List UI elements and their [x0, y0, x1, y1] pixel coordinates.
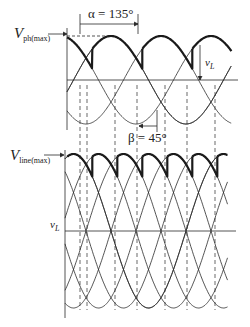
beta-label: β = 45° [128, 131, 167, 144]
bottom-load-voltage-trace [67, 154, 227, 177]
angle-annotations [80, 14, 202, 132]
bottom-vl-label: vL [50, 219, 59, 230]
bottom-axes [44, 150, 236, 318]
top-vl-label: vL [205, 57, 214, 68]
alpha-label: α = 135° [88, 7, 133, 20]
top-axes [48, 28, 238, 130]
vline-max-label: Vline(max) [10, 148, 50, 163]
vph-max-label: Vph(max) [14, 26, 50, 41]
